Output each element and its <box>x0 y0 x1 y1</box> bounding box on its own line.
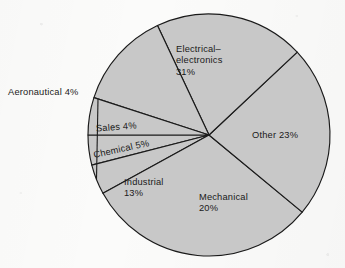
pie-chart-figure: Electrical– electronics 31% Other 23% Me… <box>0 0 345 268</box>
pie-chart-graphic <box>0 0 345 268</box>
pie-slices-group <box>88 14 330 256</box>
